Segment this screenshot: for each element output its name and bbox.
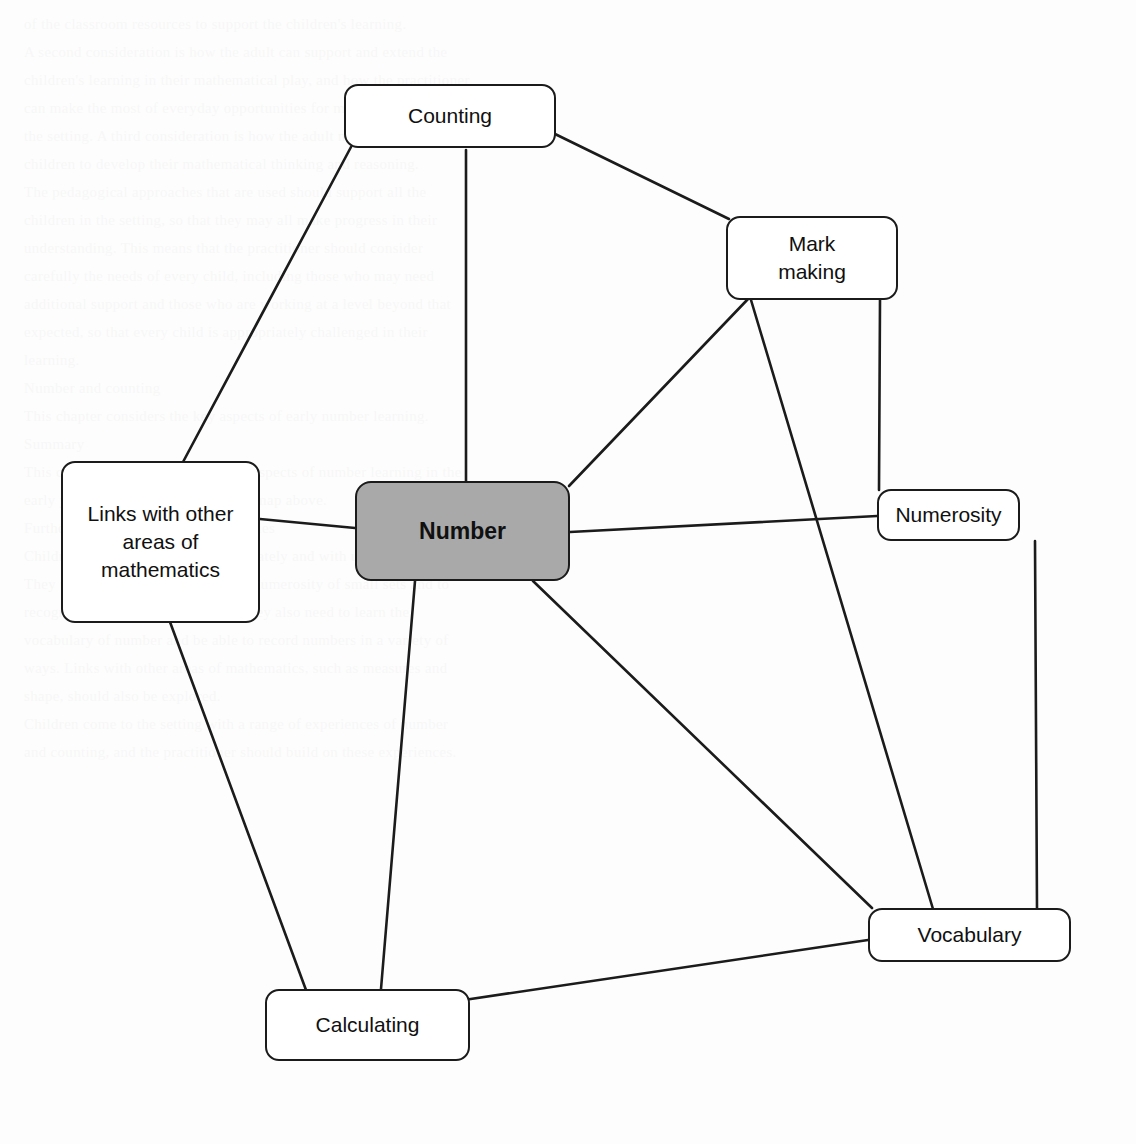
node-numerosity[interactable]: Numerosity bbox=[877, 489, 1020, 541]
node-counting[interactable]: Counting bbox=[344, 84, 556, 148]
node-label-number: Number bbox=[411, 517, 514, 545]
edge-numerosity-vocabulary bbox=[1035, 541, 1037, 908]
edge-mark-making-number bbox=[569, 299, 748, 486]
edge-number-calculating bbox=[381, 581, 415, 989]
node-mark-making[interactable]: Mark making bbox=[726, 216, 898, 300]
edge-links-calculating bbox=[170, 622, 306, 990]
node-vocabulary[interactable]: Vocabulary bbox=[868, 908, 1071, 962]
node-label-links-with-other-areas: Links with other areas of mathematics bbox=[80, 500, 242, 584]
node-label-numerosity: Numerosity bbox=[887, 501, 1009, 529]
edge-number-numerosity bbox=[570, 516, 877, 532]
concept-map-diagram: of the classroom resources to support th… bbox=[0, 0, 1136, 1144]
edge-counting-mark-making bbox=[555, 134, 729, 219]
edge-links-number bbox=[260, 519, 355, 528]
edge-calculating-vocabulary bbox=[464, 940, 868, 1000]
node-label-vocabulary: Vocabulary bbox=[910, 921, 1030, 949]
node-calculating[interactable]: Calculating bbox=[265, 989, 470, 1061]
node-number[interactable]: Number bbox=[355, 481, 570, 581]
node-links-with-other-areas[interactable]: Links with other areas of mathematics bbox=[61, 461, 260, 623]
edge-counting-links bbox=[183, 147, 351, 462]
node-label-calculating: Calculating bbox=[308, 1011, 428, 1039]
node-label-mark-making: Mark making bbox=[770, 230, 854, 286]
edge-number-vocabulary bbox=[533, 581, 872, 908]
edge-mark-making-numerosity bbox=[879, 300, 880, 490]
node-label-counting: Counting bbox=[400, 102, 500, 130]
